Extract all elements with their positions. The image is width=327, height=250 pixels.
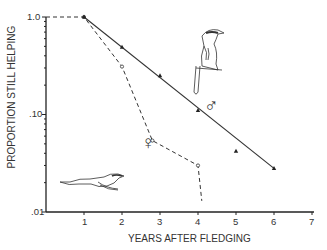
x-tick-label-7: 7 (309, 216, 314, 227)
y-axis-label: PROPORTION STILL HELPING (6, 59, 17, 169)
x-tick-label-5: 5 (233, 216, 238, 227)
male-symbol-icon: ♂ (204, 96, 218, 115)
female-symbol-icon: ♀ (141, 133, 155, 152)
chart-canvas (0, 0, 327, 250)
standing-bird-icon (194, 30, 224, 94)
x-tick-label-4: 4 (195, 216, 200, 227)
female-series (46, 15, 202, 200)
y-tick-label-0.01: .01 (31, 206, 44, 217)
male-series (82, 15, 276, 170)
flying-bird-icon (60, 174, 124, 190)
x-tick-label-2: 2 (119, 216, 124, 227)
y-tick-label-0.1: .10 (29, 108, 42, 119)
y-ticks (42, 17, 46, 212)
x-tick-label-3: 3 (157, 216, 162, 227)
x-axis-label: YEARS AFTER FLEDGING (128, 233, 251, 244)
y-tick-label-1: 1.0 (27, 11, 40, 22)
x-tick-label-6: 6 (271, 216, 276, 227)
x-tick-label-1: 1 (82, 216, 87, 227)
